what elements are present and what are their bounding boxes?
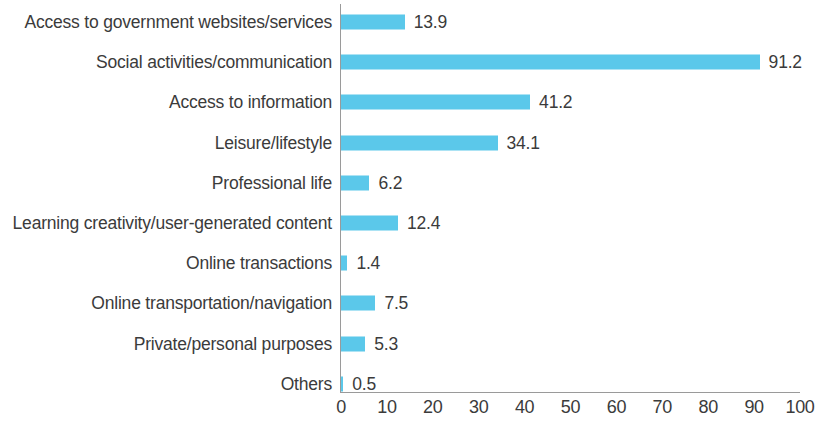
bar xyxy=(341,256,347,271)
horizontal-bar-chart: Access to government websites/servicesSo… xyxy=(0,0,815,425)
bar-value-label: 12.4 xyxy=(407,215,440,232)
category-label: Social activities/communication xyxy=(0,54,332,71)
bar-value-label: 6.2 xyxy=(378,174,402,191)
category-label: Others xyxy=(0,375,332,392)
x-axis-tick-label: 20 xyxy=(423,397,442,417)
category-label: Access to government websites/services xyxy=(0,14,332,31)
bar xyxy=(341,175,369,190)
bar-value-label: 7.5 xyxy=(384,295,408,312)
category-label: Online transactions xyxy=(0,255,332,272)
bar xyxy=(341,55,760,70)
bar-value-label: 5.3 xyxy=(374,335,398,352)
x-axis-tick-label: 50 xyxy=(561,397,580,417)
category-label: Online transportation/navigation xyxy=(0,295,332,312)
bar-value-label: 91.2 xyxy=(769,54,802,71)
x-axis-tick-label: 30 xyxy=(469,397,488,417)
x-axis-tick-label: 100 xyxy=(785,397,814,417)
bar xyxy=(341,336,365,351)
bar xyxy=(341,376,343,391)
category-label: Private/personal purposes xyxy=(0,335,332,352)
bar xyxy=(341,216,398,231)
bar-value-label: 13.9 xyxy=(414,14,447,31)
bar xyxy=(341,95,530,110)
x-axis-line xyxy=(340,392,800,393)
bar-value-label: 34.1 xyxy=(507,134,540,151)
x-axis-tick-label: 60 xyxy=(607,397,626,417)
bar xyxy=(341,135,498,150)
bar xyxy=(341,15,405,30)
category-label: Leisure/lifestyle xyxy=(0,134,332,151)
bar-value-label: 41.2 xyxy=(539,94,572,111)
bar xyxy=(341,296,375,311)
category-label: Access to information xyxy=(0,94,332,111)
bar-value-label: 1.4 xyxy=(356,255,380,272)
x-axis-tick-label: 10 xyxy=(377,397,396,417)
x-axis-tick-label: 80 xyxy=(698,397,717,417)
category-label: Professional life xyxy=(0,174,332,191)
category-label: Learning creativity/user-generated conte… xyxy=(0,215,332,232)
bar-value-label: 0.5 xyxy=(352,375,376,392)
x-axis-tick-label: 70 xyxy=(653,397,672,417)
x-axis-tick-label: 90 xyxy=(744,397,763,417)
x-axis-tick-label: 40 xyxy=(515,397,534,417)
x-axis-tick-label: 0 xyxy=(336,397,346,417)
